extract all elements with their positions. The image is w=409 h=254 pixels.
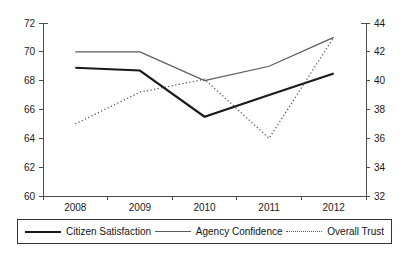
x-tick-label: 2011 — [258, 202, 280, 213]
x-tick-label: 2009 — [129, 202, 152, 213]
solid-thick-line-swatch-icon — [25, 227, 61, 237]
left-tick-label: 66 — [24, 104, 36, 115]
x-tick-label: 2010 — [193, 202, 216, 213]
right-tick-label: 32 — [374, 191, 386, 202]
series-line-citizen-satisfaction — [75, 68, 333, 117]
left-tick-label: 68 — [24, 75, 36, 86]
x-tick-label: 2008 — [64, 202, 87, 213]
legend-label-agency-confidence: Agency Confidence — [196, 227, 283, 237]
plot-area: 6062646668707232343638404244200820092010… — [0, 0, 409, 254]
left-tick-label: 70 — [24, 46, 36, 57]
axes — [39, 23, 370, 200]
right-tick-label: 34 — [374, 162, 386, 173]
line-chart: 6062646668707232343638404244200820092010… — [0, 0, 409, 254]
legend: Citizen Satisfaction Agency Confidence O… — [17, 219, 392, 244]
left-tick-label: 72 — [24, 18, 36, 29]
right-tick-label: 42 — [374, 46, 386, 57]
legend-label-citizen-satisfaction: Citizen Satisfaction — [66, 227, 151, 237]
x-tick-label: 2012 — [323, 202, 346, 213]
series-line-agency-confidence — [75, 37, 333, 80]
right-tick-label: 40 — [374, 75, 386, 86]
legend-item-citizen-satisfaction: Citizen Satisfaction — [25, 227, 151, 237]
left-axis-line — [43, 23, 366, 196]
series-line-overall-trust — [75, 37, 333, 138]
left-tick-label: 60 — [24, 191, 36, 202]
left-tick-label: 62 — [24, 162, 36, 173]
right-tick-label: 38 — [374, 104, 386, 115]
right-tick-label: 36 — [374, 133, 386, 144]
axis-tick-labels: 6062646668707232343638404244200820092010… — [24, 18, 386, 213]
legend-item-overall-trust: Overall Trust — [286, 227, 384, 237]
left-tick-label: 64 — [24, 133, 36, 144]
solid-thin-line-swatch-icon — [155, 227, 191, 237]
right-tick-label: 44 — [374, 18, 386, 29]
data-series — [75, 37, 333, 138]
dotted-line-swatch-icon — [286, 227, 322, 237]
legend-label-overall-trust: Overall Trust — [327, 227, 384, 237]
legend-item-agency-confidence: Agency Confidence — [155, 227, 283, 237]
